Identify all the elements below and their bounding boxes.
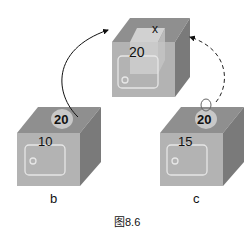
right-box-label: c xyxy=(193,191,200,206)
figure-caption: 图8.6 xyxy=(114,216,140,228)
left-tag-value: 20 xyxy=(54,112,68,127)
left-box-label: b xyxy=(50,191,57,206)
inner-box-label: x xyxy=(152,22,158,36)
left-box-value: 10 xyxy=(38,134,52,149)
diagram-canvas: x 20 20 10 b 20 15 c 图8.6 xyxy=(0,0,248,239)
dashed-arrow xyxy=(190,37,224,102)
solid-arrow xyxy=(62,30,108,117)
right-box-value: 15 xyxy=(178,134,192,149)
top-box xyxy=(112,18,190,97)
right-tag-value: 20 xyxy=(197,112,211,127)
top-box-value: 20 xyxy=(129,44,145,60)
